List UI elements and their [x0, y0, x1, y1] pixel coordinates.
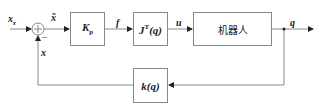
output-label: q	[290, 18, 295, 28]
minus-sign: −	[42, 33, 48, 43]
jacobian-block: JT(q)	[133, 12, 168, 46]
gain-block: Kp	[70, 12, 105, 46]
torque-label: u	[176, 18, 182, 28]
error-label: x̃	[51, 13, 56, 23]
reference-label: xr	[8, 14, 16, 27]
feedback-label: x	[41, 48, 46, 58]
kinematics-block: k(q)	[133, 68, 168, 103]
robot-block: 机器人	[193, 12, 272, 46]
force-label: f	[116, 18, 119, 28]
